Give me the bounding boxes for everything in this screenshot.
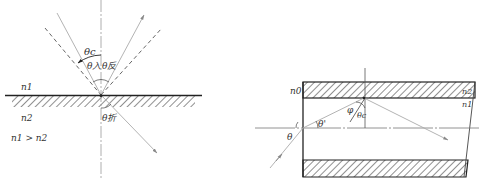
label-phi: φ (347, 105, 354, 115)
theta-arc (296, 122, 298, 128)
fiber-reflected-ray (364, 98, 448, 140)
label-theta-refract: θ折 (102, 113, 118, 123)
reflection-point (363, 97, 366, 100)
left-diagram: θc θ入 θ反 θ折 n1 n2 n1 > n2 (5, 0, 202, 178)
label-theta: θ (287, 132, 293, 142)
label-n1: n1 (21, 82, 33, 92)
cladding-top (303, 82, 475, 98)
label-theta-in: θ入 (87, 61, 101, 71)
optics-diagrams: θc θ入 θ反 θ折 n1 n2 n1 > n2 n0 (0, 0, 480, 190)
reflected-ray (101, 15, 144, 95)
label-fiber-n1: n1 (462, 100, 472, 109)
cladding-bottom (303, 160, 468, 177)
fiber-core-ray (303, 98, 364, 128)
label-fiber-theta-c: θc (357, 111, 367, 120)
label-n0: n0 (290, 86, 302, 96)
incidence-point (100, 94, 103, 97)
label-fiber-n2: n2 (462, 87, 472, 96)
label-theta-c: θc (84, 46, 96, 57)
right-diagram: n0 n2 n1 θ θ' φ θc (255, 68, 480, 177)
label-n2: n2 (21, 113, 33, 123)
label-condition: n1 > n2 (11, 133, 48, 143)
label-theta-prime: θ' (318, 119, 326, 129)
fiber-incident-arrow (276, 154, 282, 161)
label-theta-reflect: θ反 (102, 61, 117, 71)
